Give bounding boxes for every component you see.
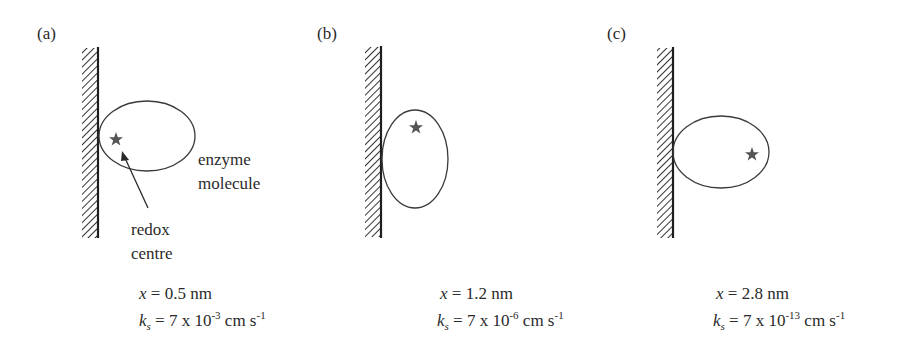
redox-centre-label-line2: centre xyxy=(131,245,173,262)
panel-a-rate-constant: ks = 7 x 10-3 cm s-1 xyxy=(139,310,266,332)
panel-b-star-icon xyxy=(409,120,423,134)
panel-c-electrode xyxy=(657,47,673,238)
panel-c-k-unit-exp: -1 xyxy=(836,309,845,321)
enzyme-molecule-label-line2: molecule xyxy=(198,175,260,192)
panel-c-star-icon xyxy=(745,147,759,161)
panel-b-k-unit-exp: -1 xyxy=(554,309,563,321)
panel-c-enzyme-ellipse xyxy=(673,116,769,188)
panel-c-k-unit: cm s xyxy=(800,311,836,330)
panel-c-distance-value: = 2.8 nm xyxy=(728,284,789,303)
panel-a-star-icon xyxy=(109,132,123,146)
panel-c-label: (c) xyxy=(607,25,626,42)
redox-centre-label-line1: redox xyxy=(131,221,170,238)
panel-a-distance-value: = 0.5 nm xyxy=(151,284,212,303)
panel-a-k-var: k xyxy=(139,311,147,330)
panel-b-k-value: = 7 x 10 xyxy=(453,311,509,330)
panel-c-k-exp: -13 xyxy=(785,309,800,321)
panel-a-electrode xyxy=(82,47,98,238)
panel-a-distance: x = 0.5 nm xyxy=(139,285,212,302)
panel-a-enzyme-ellipse xyxy=(99,101,195,171)
panel-a-k-unit-exp: -1 xyxy=(256,309,265,321)
panel-b-k-sub: s xyxy=(445,320,449,332)
panel-a-k-unit: cm s xyxy=(221,311,257,330)
panel-a-distance-var: x xyxy=(139,284,147,303)
panel-a-k-sub: s xyxy=(147,320,151,332)
panel-b-label: (b) xyxy=(317,25,337,42)
panel-a-k-exp: -3 xyxy=(211,309,220,321)
panel-c-k-var: k xyxy=(713,311,721,330)
panel-c-k-sub: s xyxy=(721,320,725,332)
enzyme-molecule-label-line1: enzyme xyxy=(198,151,251,168)
panel-b-distance-var: x xyxy=(440,284,448,303)
panel-c-rate-constant: ks = 7 x 10-13 cm s-1 xyxy=(713,310,845,332)
panel-c-k-value: = 7 x 10 xyxy=(729,311,785,330)
panel-c-distance: x = 2.8 nm xyxy=(716,285,789,302)
panel-a-label: (a) xyxy=(37,25,56,42)
panel-b-k-unit: cm s xyxy=(519,311,555,330)
panel-a-k-value: = 7 x 10 xyxy=(155,311,211,330)
panel-c-distance-var: x xyxy=(716,284,724,303)
panel-b-electrode xyxy=(365,46,381,238)
panel-b-distance-value: = 1.2 nm xyxy=(452,284,513,303)
panel-b-distance: x = 1.2 nm xyxy=(440,285,513,302)
panel-b-k-var: k xyxy=(437,311,445,330)
panel-b-rate-constant: ks = 7 x 10-6 cm s-1 xyxy=(437,310,564,332)
panel-a-arrow xyxy=(121,151,148,208)
panel-b-k-exp: -6 xyxy=(509,309,518,321)
